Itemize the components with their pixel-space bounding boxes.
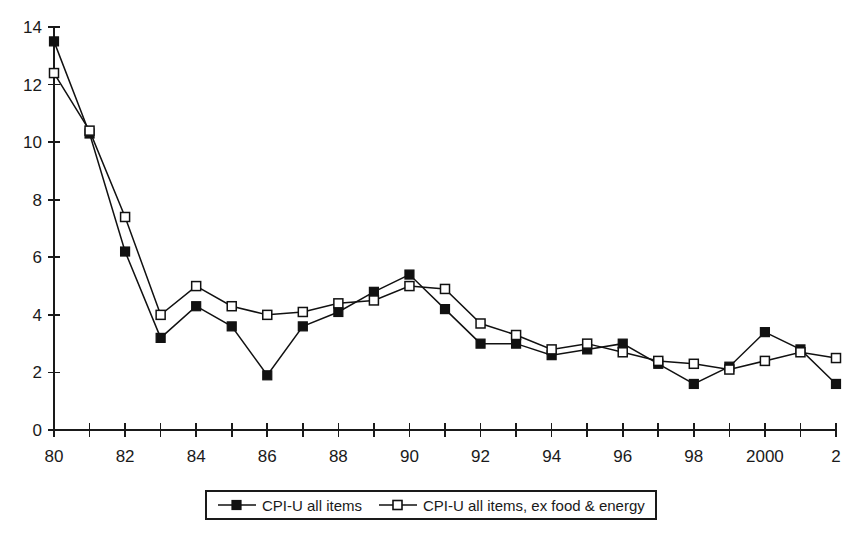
data-point-marker xyxy=(796,348,805,357)
y-axis-tick-label: 4 xyxy=(33,306,42,325)
x-axis-tick-label: 92 xyxy=(471,447,490,466)
data-point-marker xyxy=(618,339,627,348)
data-point-marker xyxy=(85,126,94,135)
y-axis-tick-label: 12 xyxy=(23,76,42,95)
data-point-marker xyxy=(832,354,841,363)
x-axis-tick-label: 94 xyxy=(542,447,561,466)
data-point-marker xyxy=(121,212,130,221)
x-axis-tick-label: 98 xyxy=(684,447,703,466)
open-square-marker-icon xyxy=(378,498,418,512)
y-axis-tick-label: 2 xyxy=(33,363,42,382)
x-axis-tick-label: 84 xyxy=(187,447,206,466)
y-axis-tick-label: 14 xyxy=(23,18,42,37)
data-point-marker xyxy=(405,282,414,291)
legend-label-cpi-ex-food-energy: CPI-U all items, ex food & energy xyxy=(423,498,645,513)
data-point-marker xyxy=(156,333,165,342)
series-line-cpi-all-items xyxy=(54,41,836,384)
chart-plot-area: 02468101214 8082848688909294969820002 xyxy=(0,0,862,533)
x-axis-tick-label: 88 xyxy=(329,447,348,466)
data-point-marker xyxy=(760,356,769,365)
data-point-marker xyxy=(441,305,450,314)
filled-square-marker-icon xyxy=(217,498,257,512)
data-point-marker xyxy=(725,365,734,374)
data-point-marker xyxy=(547,345,556,354)
cpi-inflation-chart: 02468101214 8082848688909294969820002 CP… xyxy=(0,0,862,533)
series-line-cpi-ex-food-energy xyxy=(54,73,836,369)
data-point-marker xyxy=(298,307,307,316)
data-point-marker xyxy=(192,282,201,291)
x-axis-tick-label: 82 xyxy=(116,447,135,466)
legend-entry-cpi-ex-food-energy: CPI-U all items, ex food & energy xyxy=(378,498,645,513)
y-axis-tick-label: 6 xyxy=(33,248,42,267)
series-group xyxy=(50,37,841,389)
data-point-marker xyxy=(121,247,130,256)
y-axis-group: 02468101214 xyxy=(23,18,60,440)
data-point-marker xyxy=(156,310,165,319)
data-point-marker xyxy=(405,270,414,279)
legend-entry-cpi-all-items: CPI-U all items xyxy=(217,498,362,513)
x-axis-tick-label: 96 xyxy=(613,447,632,466)
data-point-marker xyxy=(760,328,769,337)
y-axis-tick-label: 10 xyxy=(23,133,42,152)
data-point-marker xyxy=(369,296,378,305)
data-point-marker xyxy=(334,307,343,316)
data-point-marker xyxy=(618,348,627,357)
x-axis-tick-label: 90 xyxy=(400,447,419,466)
x-axis-tick-label: 2000 xyxy=(746,447,784,466)
data-point-marker xyxy=(50,69,59,78)
legend-label-cpi-all-items: CPI-U all items xyxy=(262,498,362,513)
data-point-marker xyxy=(476,319,485,328)
x-axis-tick-label: 86 xyxy=(258,447,277,466)
x-axis-tick-label: 2 xyxy=(831,447,840,466)
y-axis-tick-label: 8 xyxy=(33,191,42,210)
data-point-marker xyxy=(263,371,272,380)
x-axis-tick-label: 80 xyxy=(45,447,64,466)
data-point-marker xyxy=(512,339,521,348)
data-point-marker xyxy=(583,339,592,348)
data-point-marker xyxy=(689,359,698,368)
data-point-marker xyxy=(441,284,450,293)
data-point-marker xyxy=(50,37,59,46)
data-point-marker xyxy=(334,299,343,308)
data-point-marker xyxy=(227,322,236,331)
data-point-marker xyxy=(263,310,272,319)
y-axis-tick-label: 0 xyxy=(33,421,42,440)
data-point-marker xyxy=(227,302,236,311)
data-point-marker xyxy=(476,339,485,348)
x-axis-group: 8082848688909294969820002 xyxy=(45,423,841,466)
data-point-marker xyxy=(832,379,841,388)
chart-legend: CPI-U all items CPI-U all items, ex food… xyxy=(205,490,657,520)
data-point-marker xyxy=(298,322,307,331)
data-point-marker xyxy=(512,331,521,340)
data-point-marker xyxy=(369,287,378,296)
data-point-marker xyxy=(654,356,663,365)
data-point-marker xyxy=(689,379,698,388)
data-point-marker xyxy=(192,302,201,311)
